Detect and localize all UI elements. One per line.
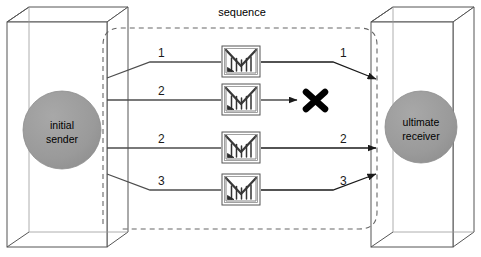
sequence-delivery-diagram: sequence 1 1 2 2 2	[0, 0, 481, 257]
packet-2-sent-label: 2	[158, 84, 165, 98]
envelope-icon	[222, 84, 260, 115]
envelope-icon	[222, 46, 260, 77]
ultimate-receiver-node: ultimate receiver	[385, 91, 457, 163]
packet-1-deliver-path	[261, 62, 376, 79]
sender-label-line2: sender	[46, 133, 79, 145]
packet-flow-1: 1 1	[107, 46, 376, 79]
packet-4-deliver-path	[261, 174, 376, 190]
packet-flow-4: 3 3	[107, 174, 376, 205]
packet-1-sent-label: 1	[158, 46, 165, 60]
packet-3-received-label: 2	[340, 132, 347, 146]
packet-3-sent-label: 2	[158, 132, 165, 146]
packet-flow-3: 2 2	[107, 132, 376, 163]
packet-1-received-label: 1	[340, 46, 347, 60]
sequence-label: sequence	[218, 6, 266, 18]
sender-label-line1: initial	[50, 119, 74, 131]
packet-flow-2: 2	[107, 84, 325, 115]
envelope-icon	[222, 174, 260, 205]
envelope-icon	[222, 132, 260, 163]
initial-sender-node: initial sender	[23, 91, 101, 169]
receiver-label-line2: receiver	[402, 130, 440, 142]
packet-4-sent-label: 3	[158, 174, 165, 188]
packet-4-received-label: 3	[340, 174, 347, 188]
receiver-label-line1: ultimate	[403, 116, 440, 128]
diagram-canvas: sequence 1 1 2 2 2	[0, 0, 481, 257]
x-mark-icon	[306, 92, 325, 109]
